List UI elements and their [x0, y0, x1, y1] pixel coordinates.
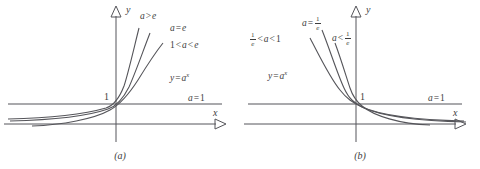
label-a-greater-than-e: a>e: [140, 12, 156, 22]
y-axis-label-b: y: [366, 5, 370, 15]
label-a-equals-e: a=e: [170, 24, 186, 34]
curve-a-greater-than-e: [8, 28, 139, 119]
caption-a: (a): [0, 150, 240, 161]
panel-b: y x 1 a=1e 1e<a<1 a<1e y=ax a=1 (b): [240, 0, 480, 169]
label-a-less-one-over-e: a<1e: [332, 31, 352, 47]
exponential-functions-figure: y x 1 a>e a=e 1<a<e y=ax a=1 (a): [0, 0, 480, 169]
panel-a: y x 1 a>e a=e 1<a<e y=ax a=1 (a): [0, 0, 240, 169]
curve-a-less-one-over-e: [335, 43, 430, 125]
curve-a-equals-e: [10, 33, 150, 121]
function-label-b: y=ax: [268, 70, 287, 82]
caption-b: (b): [240, 150, 480, 161]
y-axis-a: [111, 6, 121, 142]
asymptote-label-b: a=1: [428, 94, 445, 104]
label-a-equals-one-over-e: a=1e: [302, 16, 322, 32]
tick-label-one-a: 1: [104, 92, 109, 102]
x-axis-label-a: x: [213, 108, 217, 118]
panel-a-plot: [0, 0, 240, 169]
asymptote-label-a: a=1: [188, 94, 205, 104]
x-axis-label-b: x: [453, 108, 457, 118]
label-one-over-e-less-a-less-one: 1e<a<1: [249, 32, 281, 48]
label-one-less-a-less-e: 1<a<e: [170, 41, 198, 51]
x-axis-a: [4, 119, 226, 129]
curve-one-over-e-less-a-less-one: [310, 38, 464, 121]
panel-b-plot: [240, 0, 480, 169]
y-axis-b: [351, 6, 361, 142]
tick-label-one-b: 1: [360, 92, 365, 102]
curve-one-less-a-less-e: [32, 43, 163, 126]
y-axis-label-a: y: [126, 5, 130, 15]
function-label-a: y=ax: [170, 72, 189, 84]
